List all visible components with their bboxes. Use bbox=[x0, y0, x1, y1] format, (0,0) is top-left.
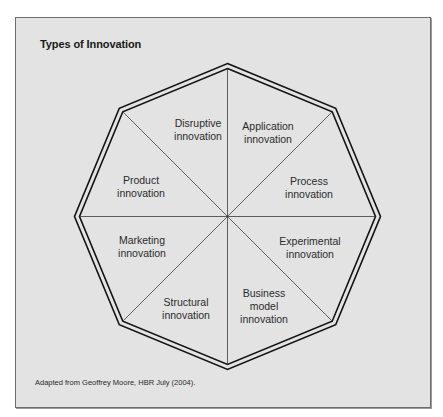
source-caption: Adapted from Geoffrey Moore, HBR July (2… bbox=[35, 378, 195, 387]
octagon-spokes bbox=[80, 69, 376, 365]
segment-business-model-innovation: Business model innovation bbox=[240, 287, 288, 326]
segment-application-innovation: Application innovation bbox=[242, 120, 293, 146]
segment-marketing-innovation: Marketing innovation bbox=[118, 234, 166, 260]
segment-product-innovation: Product innovation bbox=[117, 174, 165, 200]
segment-disruptive-innovation: Disruptive innovation bbox=[174, 117, 222, 143]
segment-experimental-innovation: Experimental innovation bbox=[279, 235, 340, 261]
segment-process-innovation: Process innovation bbox=[285, 175, 333, 201]
segment-structural-innovation: Structural innovation bbox=[162, 296, 210, 322]
octagon-diagram bbox=[0, 0, 443, 417]
